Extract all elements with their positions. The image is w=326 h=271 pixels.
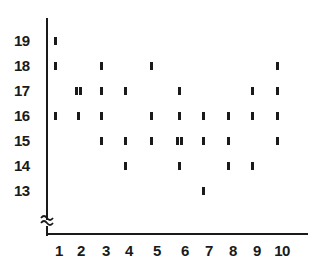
tally-mark: [100, 137, 103, 145]
tally-mark: [176, 137, 179, 145]
tally-mark: [202, 137, 205, 145]
x-tick-label: 9: [245, 243, 269, 259]
tally-mark: [178, 162, 181, 170]
tally-mark: [150, 62, 153, 70]
tally-mark: [124, 162, 127, 170]
tally-mark: [100, 87, 103, 95]
tally-mark: [178, 87, 181, 95]
x-axis-line: [46, 233, 308, 235]
tally-mark: [124, 137, 127, 145]
tally-mark: [276, 112, 279, 120]
x-tick-label: 1: [47, 243, 71, 259]
x-tick-label: 5: [145, 243, 169, 259]
x-tick-label: 4: [117, 243, 141, 259]
tally-mark: [79, 87, 82, 95]
tally-mark: [251, 162, 254, 170]
tally-mark: [251, 87, 254, 95]
x-tick-label: 2: [69, 243, 93, 259]
y-axis-line: [46, 18, 48, 220]
x-tick-label: 6: [173, 243, 197, 259]
tally-mark: [124, 87, 127, 95]
x-tick-label: 3: [94, 243, 118, 259]
tally-mark: [77, 112, 80, 120]
y-tick-label: 14: [14, 158, 42, 174]
tally-mark: [276, 62, 279, 70]
y-tick-label: 13: [14, 183, 42, 199]
x-tick-label: 10: [270, 243, 294, 259]
x-tick-label: 8: [221, 243, 245, 259]
tally-mark: [54, 112, 57, 120]
axis-break-icon: [38, 212, 56, 230]
tally-mark: [227, 112, 230, 120]
tally-mark: [180, 137, 183, 145]
y-tick-label: 19: [14, 33, 42, 49]
y-tick-label: 18: [14, 58, 42, 74]
y-tick-label: 16: [14, 108, 42, 124]
y-tick-label: 15: [14, 133, 42, 149]
tally-mark: [54, 37, 57, 45]
tally-mark: [100, 112, 103, 120]
tally-mark: [150, 112, 153, 120]
y-tick-label: 17: [14, 83, 42, 99]
tally-mark: [251, 112, 254, 120]
tally-mark: [178, 112, 181, 120]
tally-mark: [276, 137, 279, 145]
tally-mark: [276, 87, 279, 95]
tally-mark: [150, 137, 153, 145]
tally-mark: [202, 112, 205, 120]
tally-mark: [75, 87, 78, 95]
tally-mark: [227, 162, 230, 170]
x-tick-label: 7: [197, 243, 221, 259]
tally-mark: [202, 187, 205, 195]
tally-mark: [100, 62, 103, 70]
tally-mark: [227, 137, 230, 145]
tally-chart: 19181716151413 12345678910: [0, 0, 326, 271]
tally-mark: [54, 62, 57, 70]
